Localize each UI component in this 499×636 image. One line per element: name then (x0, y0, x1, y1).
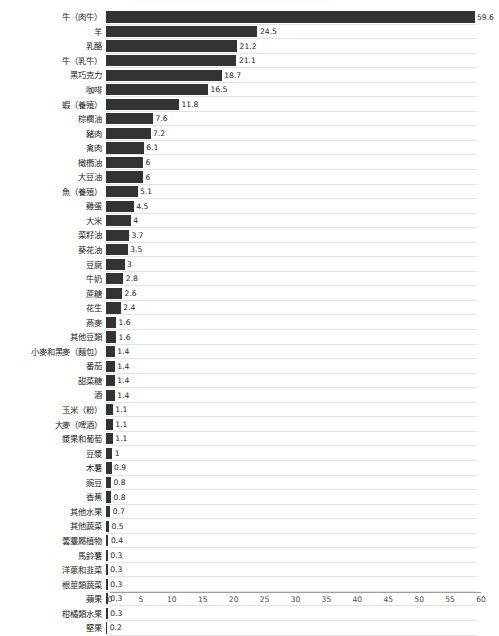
bar-value-label: 4 (131, 215, 138, 226)
bar-track: 59.6 (106, 10, 477, 25)
cropped-title-remnant (132, 0, 332, 5)
bar-category-label: 禽肉 (0, 143, 106, 153)
bar-value-label: 0.3 (108, 550, 123, 561)
bar-track: 2.6 (106, 286, 477, 301)
bar-value-label: 21.2 (237, 41, 256, 52)
bar-value-label: 1 (112, 448, 119, 459)
bar-row: 咖啡16.5 (0, 83, 499, 98)
bar-category-label: 燕麥 (0, 318, 106, 328)
bar (106, 230, 129, 241)
bar-track: 0.3 (106, 563, 477, 578)
bar-category-label: 馬鈴薯 (0, 551, 106, 561)
bar-track: 6 (106, 170, 477, 185)
bar (106, 171, 143, 182)
bar-row: 牛（乳牛）21.1 (0, 54, 499, 69)
bar-value-label: 6 (143, 157, 150, 168)
bar-value-label: 3 (125, 259, 132, 270)
x-axis-tick-label: 15 (198, 595, 208, 604)
bar-row: 禽肉6.1 (0, 141, 499, 156)
bar-row: 黑巧克力18.7 (0, 68, 499, 83)
x-axis-tick-label: 30 (291, 595, 301, 604)
bar-value-label: 0.3 (108, 579, 123, 590)
bar-row: 花生2.4 (0, 301, 499, 316)
x-axis-tick-label: 45 (383, 595, 393, 604)
bar-row: 菜籽油3.7 (0, 228, 499, 243)
bar-row: 玉米（粉）1.1 (0, 403, 499, 418)
bar-row: 其他豆類1.6 (0, 330, 499, 345)
bar-row: 漿果和葡萄1.1 (0, 432, 499, 447)
bar-value-label: 0.5 (109, 521, 124, 532)
bar (106, 317, 116, 328)
bar-row: 乳酪21.2 (0, 39, 499, 54)
bar-value-label: 1.1 (113, 404, 128, 415)
bar-row: 木薯0.9 (0, 461, 499, 476)
bar-category-label: 大米 (0, 216, 106, 226)
bar-track: 21.2 (106, 39, 477, 54)
bar-value-label: 1.6 (116, 332, 131, 343)
bar-category-label: 黑巧克力 (0, 70, 106, 80)
bar-track: 0.9 (106, 461, 477, 476)
bar-row: 蝦（養殖）11.8 (0, 97, 499, 112)
x-axis-tick-label: 5 (138, 595, 143, 604)
bar-track: 1.4 (106, 359, 477, 374)
bar-category-label: 根莖類蔬菜 (0, 580, 106, 590)
bar-value-label: 18.7 (222, 70, 241, 81)
bar-category-label: 菜籽油 (0, 230, 106, 240)
bar (106, 11, 475, 22)
bar-track: 0.4 (106, 534, 477, 549)
bar-category-label: 其他豆類 (0, 332, 106, 342)
bar (106, 84, 208, 95)
bar (106, 302, 121, 313)
bar-track: 0.7 (106, 505, 477, 520)
bar-row: 大豆油6 (0, 170, 499, 185)
bar-row: 小麥和黑麥（麵包）1.4 (0, 345, 499, 360)
bar-value-label: 4.5 (134, 201, 149, 212)
bar-track: 0.3 (106, 548, 477, 563)
bar-value-label: 2.6 (122, 288, 137, 299)
bar-track: 3 (106, 257, 477, 272)
bar-row: 羊24.5 (0, 25, 499, 40)
bar-category-label: 木薯 (0, 463, 106, 473)
bar (106, 215, 131, 226)
bar-row: 豬肉7.2 (0, 126, 499, 141)
bar-track: 0.3 (106, 577, 477, 592)
bar-category-label: 豆漿 (0, 449, 106, 459)
bar-row: 甜菜糖1.4 (0, 374, 499, 389)
bar-category-label: 羊 (0, 27, 106, 37)
bar (106, 433, 113, 444)
bar-track: 16.5 (106, 83, 477, 98)
bar-row: 洋蔥和韭菜0.3 (0, 563, 499, 578)
bar-category-label: 魚（養殖） (0, 187, 106, 197)
bar-value-label: 1.1 (113, 419, 128, 430)
bar-row: 牛奶2.8 (0, 272, 499, 287)
bar-track: 4 (106, 214, 477, 229)
bar (106, 273, 123, 284)
bar-track: 21.1 (106, 54, 477, 69)
bar-value-label: 7.6 (153, 113, 168, 124)
bar-track: 1.4 (106, 388, 477, 403)
bar (106, 346, 115, 357)
bar-value-label: 2.4 (121, 302, 136, 313)
bar-category-label: 牛奶 (0, 274, 106, 284)
bar-value-label: 3.7 (129, 230, 144, 241)
bar-track: 3.5 (106, 243, 477, 258)
bar-track: 1 (106, 446, 477, 461)
bar-category-label: 花生 (0, 303, 106, 313)
bar-track: 18.7 (106, 68, 477, 83)
bar-value-label: 6 (143, 172, 150, 183)
bar-category-label: 豬肉 (0, 129, 106, 139)
bar (106, 419, 113, 430)
bar-track: 0.2 (106, 621, 477, 636)
bar-value-label: 0.2 (107, 622, 122, 633)
bar (106, 201, 134, 212)
bar-category-label: 蘋果 (0, 594, 106, 604)
bar (106, 244, 128, 255)
bar-value-label: 0.4 (108, 535, 123, 546)
bar (106, 361, 115, 372)
bar-track: 7.2 (106, 126, 477, 141)
bar-category-label: 堅果 (0, 623, 106, 633)
bar (106, 142, 144, 153)
bar-track: 6 (106, 155, 477, 170)
bar-row: 大麥（啤酒）1.1 (0, 417, 499, 432)
